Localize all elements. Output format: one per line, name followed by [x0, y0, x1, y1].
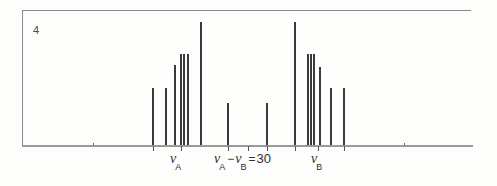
axis-tick-mark	[181, 146, 182, 151]
separation-equals-sign: =	[247, 152, 256, 166]
separation-value: 30	[257, 151, 271, 166]
spectrum-peak	[200, 22, 202, 146]
axis-tick-mark	[295, 146, 296, 151]
spectrum-peaks-layer	[0, 0, 497, 146]
axis-label-separation: νA−νB=30	[214, 152, 271, 169]
spectrum-peak	[330, 88, 332, 147]
spectrum-peak	[152, 88, 154, 147]
nu-b-subscript: B	[316, 162, 322, 172]
axis-tick-mark	[228, 146, 229, 151]
spectrum-peak	[307, 54, 309, 146]
spectrum-peak	[165, 88, 167, 147]
spectrum-peak	[183, 54, 185, 146]
spectrum-peak	[313, 54, 315, 146]
figure-root: 4 νA νA−νB=30 νB	[0, 0, 497, 186]
separation-operator: −	[226, 152, 235, 166]
separation-left-subscript: A	[219, 162, 225, 172]
nu-a-subscript: A	[175, 162, 181, 172]
axis-tick-mark	[153, 146, 154, 151]
spectrum-peak	[319, 67, 321, 146]
spectrum-peak	[294, 22, 296, 146]
spectrum-peak	[227, 103, 229, 146]
spectrum-peak	[343, 88, 345, 147]
spectrum-peak	[174, 65, 176, 146]
axis-label-nu-a: νA	[170, 152, 182, 169]
axis-tick-mark	[318, 146, 319, 151]
spectrum-peak	[266, 103, 268, 146]
axis-tick-mark	[344, 146, 345, 151]
axis-label-nu-b: νB	[311, 152, 323, 169]
separation-right-subscript: B	[240, 162, 246, 172]
spectrum-peak	[187, 54, 189, 146]
axis-tick-mark	[248, 146, 249, 151]
